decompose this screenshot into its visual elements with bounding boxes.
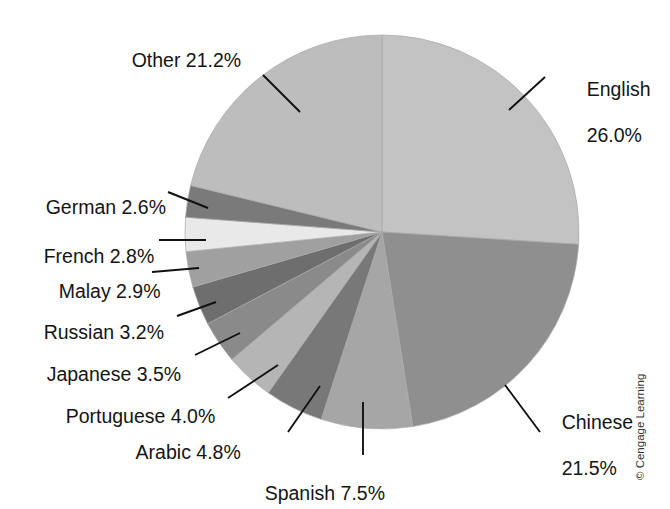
leader-line-chinese bbox=[505, 385, 540, 432]
slice-label-other: Other 21.2% bbox=[110, 26, 241, 95]
copyright-notice-wrap: © Cengage Learning bbox=[634, 330, 654, 480]
slice-label-chinese: Chinese 21.5% bbox=[540, 388, 633, 503]
slice-label-arabic-value: Arabic 4.8% bbox=[136, 441, 241, 463]
slice-label-english: English 26.0% bbox=[565, 55, 651, 170]
pie-slice-english[interactable] bbox=[382, 35, 579, 244]
slice-label-spanish-value: Spanish 7.5% bbox=[265, 482, 385, 504]
slice-label-chinese-name: Chinese bbox=[562, 411, 634, 433]
slice-label-english-value: 26.0% bbox=[587, 124, 642, 146]
slice-label-german-value: German 2.6% bbox=[46, 196, 166, 218]
slice-label-other-value: Other 21.2% bbox=[132, 49, 241, 71]
slice-label-english-name: English bbox=[587, 78, 651, 100]
slice-label-spanish: Spanish 7.5% bbox=[243, 459, 385, 509]
pie-chart-figure: Other 21.2% English 26.0% German 2.6% Fr… bbox=[0, 0, 670, 509]
pie-slice-group bbox=[185, 35, 579, 429]
slice-label-chinese-value: 21.5% bbox=[562, 457, 617, 479]
copyright-notice: © Cengage Learning bbox=[634, 330, 652, 480]
slice-label-arabic: Arabic 4.8% bbox=[115, 418, 241, 487]
